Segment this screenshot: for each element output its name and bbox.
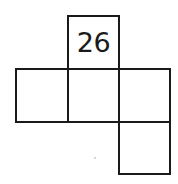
net-cell-middle-left (15, 68, 69, 123)
scan-artifact (94, 157, 96, 159)
net-cell-middle-right (118, 68, 171, 123)
cell-number: 26 (77, 27, 110, 58)
net-cell-middle-center (67, 68, 120, 123)
net-cell-bottom-right (118, 121, 171, 175)
net-cell-top: 26 (67, 15, 120, 70)
